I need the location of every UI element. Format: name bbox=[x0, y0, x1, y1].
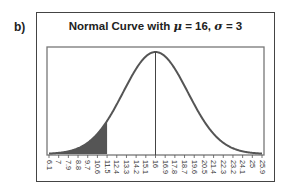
x-tick-label: 17.8 bbox=[170, 160, 179, 174]
x-tick-label: 15.1 bbox=[141, 160, 150, 174]
x-tick-label: 11.5 bbox=[103, 160, 112, 173]
x-tick-label: 9.7 bbox=[83, 160, 92, 170]
x-tick-label: 7 bbox=[54, 160, 63, 164]
x-tick-label: 25 bbox=[248, 160, 257, 168]
x-tick-label: 16 bbox=[151, 160, 160, 168]
normal-curve-plot: 6.177.98.89.710.611.512.413.314.215.1161… bbox=[0, 0, 291, 187]
x-tick-label: 14.2 bbox=[132, 160, 141, 174]
x-tick-label: 24.1 bbox=[238, 160, 247, 174]
x-tick-label: 25.9 bbox=[258, 160, 267, 174]
x-tick-label: 18.7 bbox=[180, 160, 189, 174]
x-tick-label: 6.1 bbox=[45, 160, 54, 170]
x-tick-label: 21.4 bbox=[209, 160, 218, 174]
x-tick-label: 13.3 bbox=[122, 160, 131, 174]
x-tick-label: 19.6 bbox=[190, 160, 199, 174]
x-tick-label: 16.9 bbox=[161, 160, 170, 174]
x-tick-label: 22.3 bbox=[219, 160, 228, 174]
x-tick-label: 7.9 bbox=[64, 160, 73, 170]
x-tick-label: 8.8 bbox=[74, 160, 83, 170]
x-tick-label: 12.4 bbox=[112, 160, 121, 174]
x-tick-label: 10.6 bbox=[93, 160, 102, 174]
x-tick-label: 20.5 bbox=[200, 160, 209, 174]
x-tick-label: 23.2 bbox=[229, 160, 238, 174]
